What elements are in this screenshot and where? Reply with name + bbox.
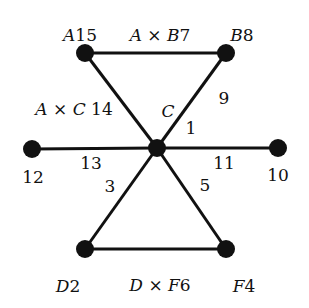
label-weight-9: 9 [219,90,230,107]
node-B [217,44,235,62]
node-A [76,44,94,62]
label-weight-13: 13 [80,155,102,172]
node-D [76,240,94,258]
node-center [148,139,166,157]
node-F [217,240,235,258]
edge-left-center [32,148,157,149]
label-weight-3: 3 [105,178,116,195]
label-weight-10: 10 [267,167,289,184]
graph-diagram: A15 B8 D2 F4 A × B7 D × F6 A × C 14 C 1 … [0,0,309,308]
label-center-c: C [161,103,174,120]
label-node-b: B8 [230,27,253,44]
node-left [23,140,41,158]
label-node-f: F4 [233,278,256,295]
label-weight-5: 5 [200,177,211,194]
graph-svg [0,0,309,308]
label-weight-11: 11 [213,155,235,172]
label-edge-a-times-c: A × C 14 [35,101,112,118]
label-weight-12: 12 [22,169,44,186]
node-right [269,139,287,157]
label-edge-a-times-b: A × B7 [130,27,191,44]
label-node-d: D2 [56,278,80,295]
label-weight-1: 1 [186,120,197,137]
label-edge-d-times-f: D × F6 [129,277,190,294]
label-node-a: A15 [63,27,97,44]
